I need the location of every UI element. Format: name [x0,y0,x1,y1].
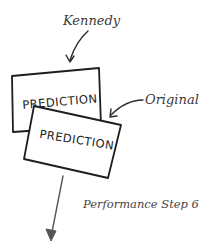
performance-step-label: Performance Step 6 [83,199,199,211]
diagram-canvas: PREDICTION PREDICTION Kennedy Original P… [0,0,211,251]
original-label: Original [145,93,199,106]
prediction-card-front: PREDICTION [24,106,121,178]
kennedy-label: Kennedy [63,14,120,27]
original-arrow-icon [110,100,143,117]
diagram-svg: PREDICTION PREDICTION [0,0,211,251]
down-arrow-icon [46,176,63,241]
kennedy-arrow-icon [66,31,88,62]
